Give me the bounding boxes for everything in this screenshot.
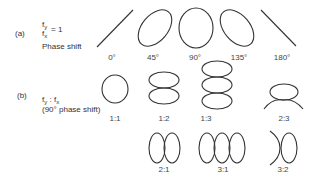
lissajous-1-2-loop-bottom [149, 88, 179, 104]
lissajous-1-1-circle [102, 75, 128, 103]
lissajous-45deg-ellipse [132, 4, 179, 53]
lissajous-3-1-loop-middle [214, 133, 230, 163]
lissajous-3-2-loop [281, 133, 297, 163]
lissajous-2-3-arcs [264, 100, 303, 109]
lissajous-3-1-loop-left [199, 133, 215, 163]
lissajous-1-3-loop-middle [202, 77, 232, 93]
lissajous-2-1-loop-left [149, 133, 165, 163]
lissajous-3-1-loop-right [229, 133, 245, 163]
lissajous-3-2-arcs [270, 131, 280, 165]
lissajous-135deg-ellipse [214, 4, 261, 53]
lissajous-1-2-loop-top [149, 72, 179, 88]
lissajous-0deg-line [97, 10, 133, 47]
lissajous-90deg-ellipse [179, 8, 213, 48]
lissajous-1-3-loop-bottom [202, 93, 232, 109]
lissajous-figures [0, 0, 312, 180]
lissajous-180deg-line [261, 10, 296, 46]
lissajous-2-1-loop-right [164, 133, 180, 163]
lissajous-2-3-loop [270, 84, 298, 100]
lissajous-1-3-loop-top [202, 61, 232, 77]
